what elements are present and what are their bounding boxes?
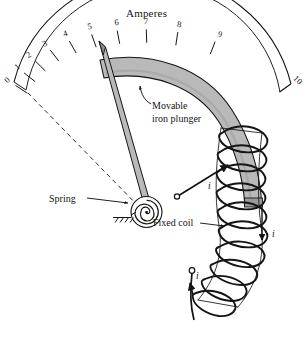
movable-plunger-leader bbox=[140, 86, 151, 104]
current-label-upper-lead: i bbox=[208, 182, 211, 192]
spring-leader bbox=[87, 198, 128, 203]
spring-label: Spring bbox=[49, 194, 76, 204]
fixed-coil-leader bbox=[200, 223, 224, 226]
tick-5 bbox=[92, 34, 97, 47]
lower-lead-terminal bbox=[189, 268, 195, 274]
tick-10 bbox=[279, 84, 290, 92]
movable-plunger-label-line2: iron plunger bbox=[152, 114, 201, 124]
zero-reference-dashed-line bbox=[28, 93, 144, 212]
ammeter-diagram: 0 1 2 3 4 5 6 7 8 9 10 bbox=[0, 0, 307, 349]
coil-turn-10 bbox=[193, 291, 236, 316]
movable-plunger-label-line1: Movable bbox=[152, 101, 188, 111]
tick-label-0: 0 bbox=[2, 75, 12, 85]
tick-2 bbox=[35, 61, 45, 71]
tick-label-10: 10 bbox=[291, 73, 304, 86]
tick-9 bbox=[210, 42, 215, 54]
tick-8 bbox=[176, 32, 178, 45]
fixed-coil bbox=[193, 126, 268, 316]
coil-turn-9 bbox=[202, 276, 247, 301]
tick-label-2: 2 bbox=[24, 49, 33, 60]
upper-lead-terminal bbox=[174, 194, 179, 199]
fixed-coil-label: Fixed coil bbox=[153, 218, 193, 228]
current-label-lower-lead: i bbox=[196, 272, 199, 282]
tick-label-5: 5 bbox=[86, 21, 92, 32]
tick-6 bbox=[117, 31, 120, 44]
ground-hatch-1 bbox=[115, 218, 119, 223]
tick-label-6: 6 bbox=[114, 17, 120, 27]
tick-3 bbox=[50, 50, 59, 61]
current-label-through-coil: i bbox=[272, 230, 275, 240]
ground-hatch-2 bbox=[120, 218, 124, 223]
tick-label-9: 9 bbox=[216, 29, 223, 40]
coil-turn-7 bbox=[216, 242, 264, 268]
pivot-center-dot bbox=[146, 211, 148, 213]
tick-label-8: 8 bbox=[177, 19, 183, 30]
tick-4 bbox=[69, 41, 76, 53]
chart-title-amperes: Amperes bbox=[126, 8, 167, 19]
ground-hatch-3 bbox=[125, 218, 129, 223]
tick-label-4: 4 bbox=[61, 28, 69, 39]
